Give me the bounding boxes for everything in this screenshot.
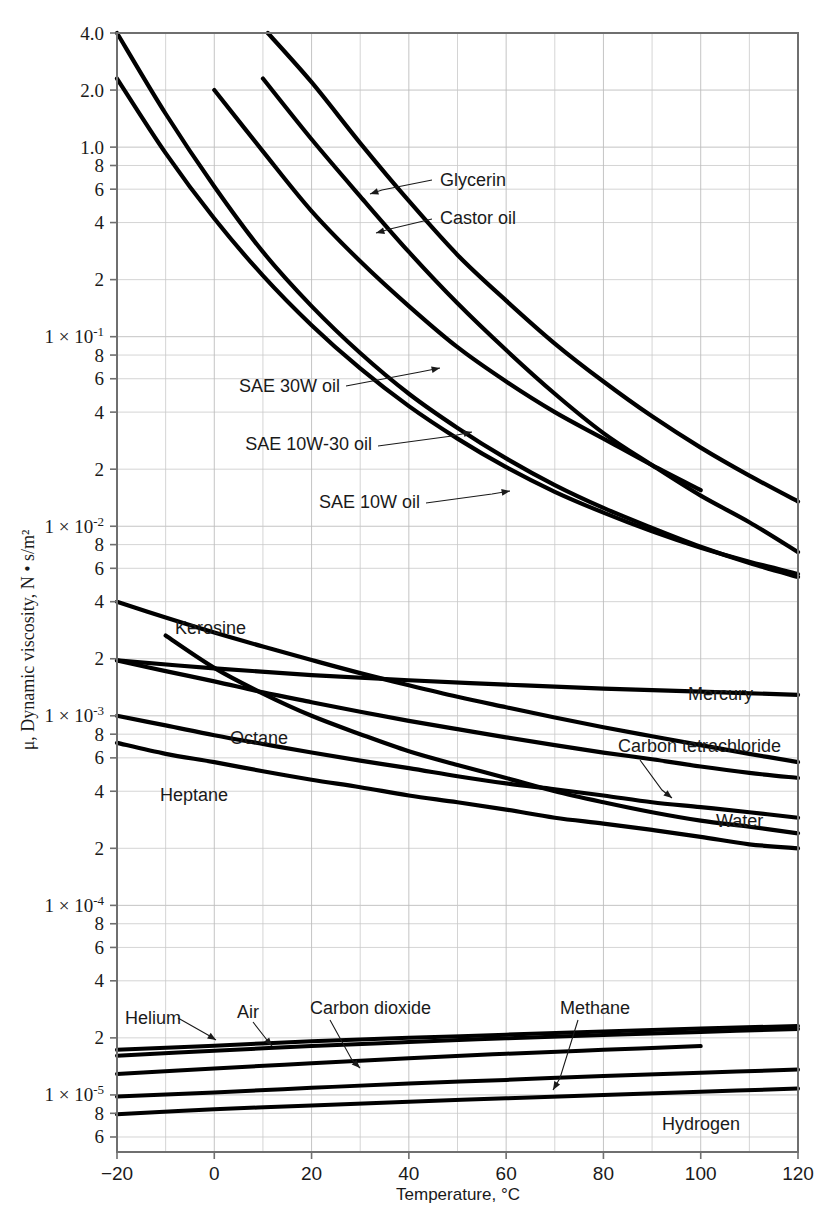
viscosity-chart-figure: 4.02.01.086421 × 10-186421 × 10-286421 ×… — [0, 0, 834, 1220]
y-tick-label: 6 — [95, 368, 105, 389]
x-tick-label: 40 — [398, 1163, 419, 1184]
leader-methane-arrow — [553, 1081, 560, 1090]
y-tick-label: 2 — [95, 269, 105, 290]
y-tick-label: 6 — [95, 937, 105, 958]
curve-label-sae-30w-oil: SAE 30W oil — [239, 376, 340, 396]
x-tick-label: −20 — [101, 1163, 133, 1184]
y-tick-label-group: 4.02.01.086421 × 10-186421 × 10-286421 ×… — [44, 23, 104, 1148]
y-tick-label: 8 — [95, 155, 105, 176]
x-tick-label-group: −20020406080100120 — [101, 1163, 814, 1184]
y-tick-label: 4 — [95, 591, 105, 612]
x-tick-label: 0 — [209, 1163, 220, 1184]
y-tick-label: 2 — [95, 648, 105, 669]
y-tick-label: 4 — [95, 970, 105, 991]
curve-castor-oil — [268, 33, 798, 502]
y-tick-label: 6 — [95, 747, 105, 768]
curve-label-octane: Octane — [230, 728, 288, 748]
curve-label-carbon-dioxide: Carbon dioxide — [310, 998, 431, 1018]
y-tick-label: 8 — [95, 534, 105, 555]
curve-label-methane: Methane — [560, 998, 630, 1018]
leader-sae-10w-oil — [426, 491, 510, 503]
y-tick-label: 2 — [95, 1027, 105, 1048]
y-tick-label: 6 — [95, 558, 105, 579]
y-axis-title: μ, Dynamic viscosity, N • s/m² — [18, 530, 38, 751]
y-tick-label: 8 — [95, 1103, 105, 1124]
grid-lines — [117, 33, 798, 1152]
y-tick-label: 4 — [95, 781, 105, 802]
dynamic-viscosity-vs-temperature-chart: 4.02.01.086421 × 10-186421 × 10-286421 ×… — [0, 0, 834, 1220]
x-tick-label: 120 — [782, 1163, 814, 1184]
y-tick-label: 2 — [95, 838, 105, 859]
y-tick-label: 8 — [95, 913, 105, 934]
y-tick-label: 6 — [95, 179, 105, 200]
leader-line-group — [178, 180, 672, 1090]
curve-label-helium: Helium — [125, 1008, 181, 1028]
y-tick-label: 4 — [95, 402, 105, 423]
x-tick-label: 80 — [593, 1163, 614, 1184]
y-tick-label: 2.0 — [80, 80, 104, 101]
curve-label-heptane: Heptane — [160, 785, 228, 805]
y-tick-label: 8 — [95, 724, 105, 745]
curve-label-castor-oil: Castor oil — [440, 208, 516, 228]
curve-label-carbon-tetrachloride: Carbon tetrachloride — [618, 736, 781, 756]
x-axis-title: Temperature, °C — [396, 1185, 520, 1204]
curve-label-hydrogen: Hydrogen — [662, 1114, 740, 1134]
curve-label-group: GlycerinCastor oilSAE 30W oilSAE 10W-30 … — [125, 170, 781, 1134]
curve-label-kerosine: Kerosine — [175, 618, 246, 638]
y-tick-label: 6 — [95, 1126, 105, 1147]
leader-sae-30w-oil-arrow — [431, 366, 440, 373]
leader-castor-oil-arrow — [376, 228, 385, 234]
y-tick-label: 4 — [95, 212, 105, 233]
curve-label-water: Water — [716, 811, 763, 831]
curve-label-sae-10w-30-oil: SAE 10W-30 oil — [245, 434, 372, 454]
leader-sae-10w-oil-arrow — [501, 489, 510, 496]
curve-label-air: Air — [237, 1002, 259, 1022]
curve-label-glycerin: Glycerin — [440, 170, 506, 190]
x-tick-label: 20 — [301, 1163, 322, 1184]
y-tick-label: 8 — [95, 345, 105, 366]
curve-label-mercury: Mercury — [688, 684, 753, 704]
curve-label-sae-10w-oil: SAE 10W oil — [319, 492, 420, 512]
y-tick-label: 4.0 — [80, 23, 104, 44]
y-tick-label: 2 — [95, 459, 105, 480]
x-tick-label: 100 — [685, 1163, 717, 1184]
x-tick-label: 60 — [496, 1163, 517, 1184]
tick-mark-group — [110, 33, 798, 1159]
